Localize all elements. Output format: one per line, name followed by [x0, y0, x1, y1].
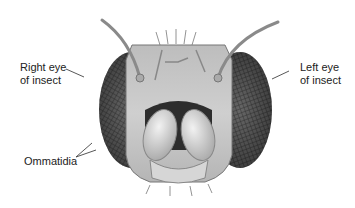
insect-head-diagram: Right eye of insect Left eye of insect O…	[0, 0, 355, 208]
right-eye-label: Right eye of insect	[20, 61, 66, 87]
right-eye-label-line1: Right eye	[20, 61, 66, 74]
ommatidia-label: Ommatidia	[24, 155, 77, 168]
left-eye-label: Left eye of insect	[300, 61, 341, 87]
left-eye-label-line2: of insect	[300, 74, 341, 87]
left-eye-leader-line	[272, 71, 289, 79]
ommatidia-leader-line-1	[76, 143, 92, 157]
left-eye-label-line1: Left eye	[300, 61, 341, 74]
insect-head-illustration	[0, 0, 355, 208]
right-eye-label-line2: of insect	[20, 74, 66, 87]
right-eye-leader-line	[66, 69, 84, 77]
ommatidia-leader-line-2	[76, 150, 96, 157]
